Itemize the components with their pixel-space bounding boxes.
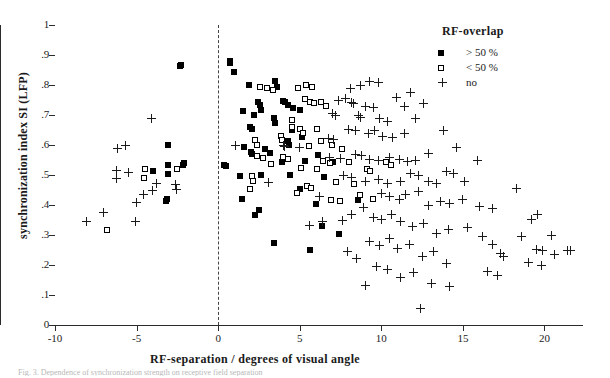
data-point-filled-square [227, 60, 233, 66]
data-point-open-square [142, 166, 148, 172]
data-point-filled-square [256, 207, 262, 213]
data-point-plus [445, 282, 454, 291]
data-point-plus [139, 190, 148, 199]
data-point-plus [352, 254, 361, 263]
data-point-plus [387, 210, 396, 219]
data-point-open-square [351, 181, 357, 187]
data-point-open-square [289, 124, 295, 130]
data-point-plus [449, 169, 458, 178]
data-point-plus [383, 179, 392, 188]
x-tick [300, 325, 301, 331]
data-point-open-square [270, 87, 276, 93]
data-point-open-square [260, 155, 266, 161]
data-point-plus [414, 171, 423, 180]
data-point-plus [375, 241, 384, 250]
data-point-filled-square [240, 108, 246, 114]
data-point-plus [385, 234, 394, 243]
data-point-open-square [141, 175, 147, 181]
data-point-plus [369, 103, 378, 112]
data-point-open-square [337, 198, 343, 204]
x-tick [381, 325, 382, 331]
data-point-plus [409, 268, 418, 277]
data-point-plus [152, 179, 161, 188]
data-point-plus [419, 219, 428, 228]
data-point-filled-square [297, 107, 303, 113]
data-point-open-square [367, 168, 373, 174]
data-point-plus [383, 117, 392, 126]
data-point-open-square [333, 179, 339, 185]
data-point-open-square [254, 142, 260, 148]
data-point-plus [325, 153, 334, 162]
data-point-open-square [339, 146, 345, 152]
data-point-open-square [298, 165, 304, 171]
data-point-open-square [247, 186, 253, 192]
data-point-open-square [311, 100, 317, 106]
data-point-plus [424, 201, 433, 210]
data-point-plus [517, 232, 526, 241]
data-point-open-square [314, 126, 320, 132]
data-point-plus [427, 279, 436, 288]
data-point-plus [388, 133, 397, 142]
data-point-filled-square [165, 162, 171, 168]
legend-label: > 50 % [466, 45, 498, 60]
legend-marker-filled-square-icon [438, 50, 444, 56]
data-point-open-square [104, 227, 110, 233]
data-point-plus [444, 225, 453, 234]
data-point-plus [374, 175, 383, 184]
data-point-plus [231, 141, 240, 150]
data-point-filled-square [257, 102, 263, 108]
data-point-plus [411, 114, 420, 123]
x-tick [218, 325, 219, 331]
data-point-plus [347, 210, 356, 219]
data-point-open-square [357, 192, 363, 198]
data-point-filled-square [321, 174, 327, 180]
data-point-plus [445, 199, 454, 208]
data-point-plus [458, 195, 467, 204]
data-point-plus [131, 217, 140, 226]
data-point-filled-square [272, 120, 278, 126]
data-point-open-square [174, 166, 180, 172]
data-point-plus [550, 250, 559, 259]
data-point-plus [475, 202, 484, 211]
legend: RF-overlap > 50 %< 50 %no [432, 24, 602, 90]
data-point-filled-square [249, 126, 255, 132]
data-point-plus [524, 258, 533, 267]
data-point-plus [349, 99, 358, 108]
x-tick-label: 0 [198, 333, 238, 344]
data-point-plus [361, 177, 370, 186]
data-point-plus [359, 203, 368, 212]
data-point-plus [377, 215, 386, 224]
data-point-filled-square [237, 173, 243, 179]
data-point-open-square [289, 117, 295, 123]
data-point-filled-square [180, 162, 186, 168]
data-point-plus [396, 217, 405, 226]
data-point-filled-square [163, 198, 169, 204]
data-point-plus [400, 129, 409, 138]
legend-entry: < 50 % [432, 60, 602, 75]
y-tick-label: .1 [19, 289, 49, 300]
data-point-filled-square [177, 63, 183, 69]
data-point-plus [499, 252, 508, 261]
data-point-plus [385, 192, 394, 201]
y-axis-line [0, 25, 1, 325]
legend-marker-open-square-icon [438, 65, 444, 71]
x-tick [463, 325, 464, 331]
x-tick-label: -5 [117, 333, 157, 344]
data-point-filled-square [239, 196, 245, 202]
x-tick-label: -10 [35, 333, 75, 344]
data-point-plus [295, 143, 304, 152]
data-point-open-square [295, 85, 301, 91]
data-point-plus [401, 190, 410, 199]
data-point-filled-square [150, 168, 156, 174]
data-point-open-square [285, 156, 291, 162]
data-point-plus [351, 126, 360, 135]
x-tick [55, 325, 56, 331]
data-point-plus [493, 271, 502, 280]
data-point-open-square [314, 166, 320, 172]
x-tick-label: 5 [280, 333, 320, 344]
data-point-open-square [294, 190, 300, 196]
legend-entry: > 50 % [432, 45, 602, 60]
figure-scatter-plot: 0.1.2.3.4.5.6.7.8.91 -10-505101520 synch… [0, 0, 610, 378]
data-point-plus [483, 267, 492, 276]
data-point-plus [365, 155, 374, 164]
